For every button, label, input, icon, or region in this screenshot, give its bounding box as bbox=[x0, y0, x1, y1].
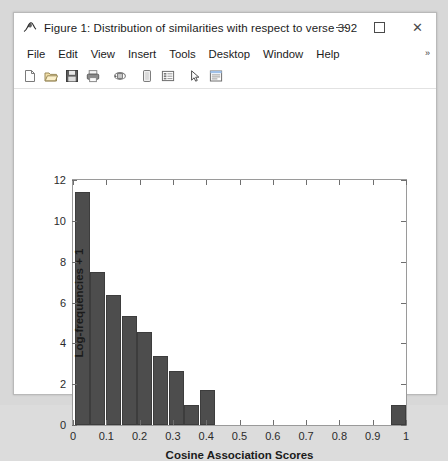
menu-item-desktop[interactable]: Desktop bbox=[203, 47, 256, 61]
x-axis-tick-mirror bbox=[373, 180, 374, 185]
maximize-icon bbox=[374, 22, 385, 33]
histogram-bar bbox=[391, 405, 406, 425]
x-axis-tick-mirror bbox=[339, 180, 340, 185]
matlab-figure-icon bbox=[22, 21, 37, 35]
maximize-button[interactable] bbox=[360, 13, 398, 42]
histogram-bar bbox=[169, 371, 184, 425]
histogram-bar bbox=[106, 295, 121, 425]
y-axis-tick-label: 6 bbox=[60, 297, 66, 309]
x-axis-tick-mirror bbox=[406, 180, 407, 185]
y-axis-tick-mirror bbox=[401, 425, 406, 426]
y-axis-tick-label: 2 bbox=[60, 378, 66, 390]
insert-legend-icon[interactable] bbox=[158, 67, 178, 86]
y-axis-tick-mirror bbox=[401, 303, 406, 304]
y-axis-tick-label: 12 bbox=[54, 174, 66, 186]
y-axis-tick bbox=[72, 221, 77, 222]
x-axis-tick-label: 0.6 bbox=[265, 430, 280, 442]
print-figure-icon[interactable] bbox=[83, 67, 103, 86]
x-axis-tick-label: 1 bbox=[403, 430, 409, 442]
menu-overflow-chevron-icon[interactable]: » bbox=[425, 49, 430, 58]
x-axis-tick-label: 0.5 bbox=[232, 430, 247, 442]
y-axis-title: Log-frequencies + 1 bbox=[73, 248, 85, 357]
x-axis-tick bbox=[240, 420, 241, 425]
edit-plot-arrow-icon[interactable] bbox=[185, 67, 205, 86]
histogram-bar bbox=[184, 405, 199, 425]
data-cursor-icon[interactable] bbox=[137, 67, 157, 86]
menu-item-tools[interactable]: Tools bbox=[163, 47, 201, 61]
histogram-bar bbox=[90, 272, 105, 425]
x-axis-tick-mirror bbox=[206, 180, 207, 185]
figure-toolbar bbox=[14, 64, 436, 89]
histogram-bar bbox=[137, 332, 152, 425]
x-axis-tick bbox=[273, 420, 274, 425]
menu-bar: File Edit View Insert Tools Desktop Wind… bbox=[14, 43, 436, 64]
plot-axes: 024681012 00.10.20.30.40.50.60.70.80.91 … bbox=[72, 179, 407, 426]
new-figure-icon[interactable] bbox=[20, 67, 40, 86]
minimize-button[interactable] bbox=[322, 13, 360, 42]
menu-item-help[interactable]: Help bbox=[310, 47, 345, 61]
matlab-figure-window: Figure 1: Distribution of similarities w… bbox=[13, 12, 437, 395]
x-axis-tick-label: 0.9 bbox=[365, 430, 380, 442]
x-axis-tick bbox=[373, 420, 374, 425]
figure-canvas: 024681012 00.10.20.30.40.50.60.70.80.91 … bbox=[14, 89, 436, 394]
x-axis-title: Cosine Association Scores bbox=[73, 449, 406, 461]
x-axis-tick-mirror bbox=[240, 180, 241, 185]
x-axis-tick bbox=[206, 420, 207, 425]
save-figure-icon[interactable] bbox=[62, 67, 82, 86]
y-axis-tick-mirror bbox=[401, 221, 406, 222]
menu-item-window[interactable]: Window bbox=[257, 47, 309, 61]
histogram-bar bbox=[153, 356, 168, 425]
rotate-3d-icon[interactable] bbox=[110, 67, 130, 86]
x-axis-tick-mirror bbox=[173, 180, 174, 185]
x-axis-tick bbox=[339, 420, 340, 425]
y-axis-tick-mirror bbox=[401, 343, 406, 344]
y-axis-tick-label: 4 bbox=[60, 337, 66, 349]
menu-item-insert[interactable]: Insert bbox=[122, 47, 162, 61]
x-axis-tick-mirror bbox=[306, 180, 307, 185]
y-axis-tick-mirror bbox=[401, 262, 406, 263]
window-controls: ✕ bbox=[322, 13, 436, 42]
x-axis-tick-label: 0 bbox=[70, 430, 76, 442]
histogram-bar bbox=[122, 316, 137, 425]
window-title: Figure 1: Distribution of similarities w… bbox=[44, 22, 357, 34]
x-axis-tick bbox=[406, 420, 407, 425]
minimize-icon bbox=[336, 27, 347, 28]
window-titlebar[interactable]: Figure 1: Distribution of similarities w… bbox=[14, 13, 436, 43]
x-axis-tick-label: 0.4 bbox=[199, 430, 214, 442]
menu-item-file[interactable]: File bbox=[21, 47, 51, 61]
x-axis-tick bbox=[173, 420, 174, 425]
show-plot-tools-icon[interactable] bbox=[206, 67, 226, 86]
menu-item-edit[interactable]: Edit bbox=[52, 47, 83, 61]
x-axis-tick-label: 0.3 bbox=[165, 430, 180, 442]
x-axis-tick-label: 0.8 bbox=[332, 430, 347, 442]
y-axis-tick-mirror bbox=[401, 384, 406, 385]
x-axis-tick bbox=[73, 420, 74, 425]
y-axis-tick-label: 8 bbox=[60, 256, 66, 268]
x-axis-tick-label: 0.2 bbox=[132, 430, 147, 442]
x-axis-tick bbox=[106, 420, 107, 425]
y-axis-tick bbox=[72, 425, 77, 426]
menu-item-view[interactable]: View bbox=[85, 47, 121, 61]
open-file-icon[interactable] bbox=[41, 67, 61, 86]
y-axis-tick-label: 0 bbox=[60, 419, 66, 431]
x-axis-tick-label: 0.7 bbox=[298, 430, 313, 442]
x-axis-tick-mirror bbox=[73, 180, 74, 185]
histogram-bars bbox=[73, 180, 406, 425]
y-axis-tick-label: 10 bbox=[54, 215, 66, 227]
x-axis-tick-mirror bbox=[273, 180, 274, 185]
x-axis-tick-label: 0.1 bbox=[99, 430, 114, 442]
x-axis-tick bbox=[140, 420, 141, 425]
x-axis-tick-mirror bbox=[106, 180, 107, 185]
close-button[interactable]: ✕ bbox=[398, 13, 436, 42]
histogram-bar bbox=[200, 390, 215, 425]
close-icon: ✕ bbox=[412, 21, 423, 34]
x-axis-tick bbox=[306, 420, 307, 425]
x-axis-tick-mirror bbox=[140, 180, 141, 185]
y-axis-tick bbox=[72, 384, 77, 385]
